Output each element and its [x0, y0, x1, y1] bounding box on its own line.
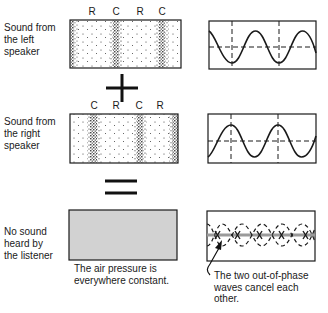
plus-operator	[106, 74, 138, 102]
waveform-left-speaker	[209, 21, 316, 69]
pressure-box-left-speaker	[70, 20, 181, 68]
pressure-box-constant	[69, 210, 177, 260]
equals-operator	[105, 181, 137, 193]
waveform-cancellation	[207, 211, 315, 261]
diagram-graphics	[0, 0, 328, 313]
pressure-box-right-speaker	[70, 114, 178, 163]
waveform-right-speaker	[208, 114, 316, 163]
